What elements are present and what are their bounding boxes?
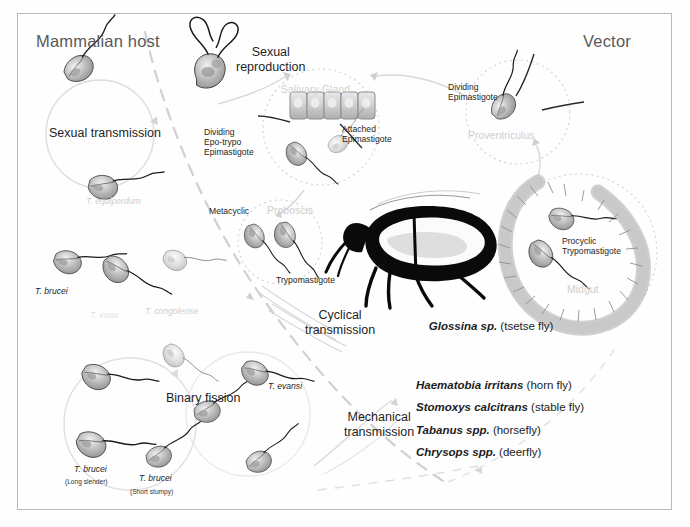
- mechanical-vector-common: (stable fly): [528, 401, 584, 413]
- label-t-brucei-short-stumpy-sub: (Short stumpy): [130, 488, 173, 496]
- mechanical-vector-species: Chrysops spp.: [416, 446, 496, 458]
- salivary-gland-epithelium: [290, 92, 375, 119]
- label-midgut: Midgut: [567, 283, 599, 295]
- label-t-brucei-long-slender-sub: (Long slender): [65, 478, 108, 486]
- mechanical-vector-common: (deerfly): [496, 446, 541, 458]
- list-item: Haematobia irritans (horn fly): [416, 374, 584, 396]
- label-trypomastigote: Trypomastigote: [276, 275, 335, 285]
- label-proboscis: Proboscis: [267, 204, 313, 216]
- trypanosome-binary-fission-top: [78, 344, 159, 416]
- label-dividing-epo-trypo-epimastigote: Dividing Epo-trypo Epimastigote: [204, 127, 254, 157]
- label-sexual-transmission: Sexual transmission: [49, 126, 161, 141]
- label-t-congolense: T. congolense: [145, 306, 198, 316]
- caption-glossina-species: Glossina sp.: [429, 320, 497, 332]
- mechanical-vector-species: Haematobia irritans: [416, 379, 523, 391]
- page-title-mammalian-host: Mammalian host: [36, 32, 160, 51]
- label-procyclic-trypomastigote: Procyclic Trypomastigote: [562, 236, 621, 256]
- label-t-brucei: T. brucei: [35, 286, 68, 296]
- mechanical-vector-species: Stomoxys calcitrans: [416, 401, 528, 413]
- list-item: Stomoxys calcitrans (stable fly): [416, 396, 584, 418]
- figure-canvas: Mammalian host Vector Sexual transmissio…: [0, 0, 690, 527]
- mechanical-vector-species: Tabanus spp.: [416, 424, 490, 436]
- label-t-equiperdum: T. equiperdum: [86, 196, 141, 206]
- trypanosome-short-stumpy: [141, 421, 208, 469]
- tsetse-fly-illustration: [326, 191, 497, 308]
- label-dividing-epimastigote: Dividing Epimastigote: [448, 82, 498, 102]
- proventriculus-extra-flagellum: [516, 54, 584, 110]
- trypanosome-sexual-reproduction: [190, 17, 238, 88]
- label-sexual-reproduction: Sexual reproduction: [236, 45, 306, 75]
- label-cyclical-transmission: Cyclical transmission: [305, 308, 375, 338]
- label-t-brucei-short-stumpy: T. brucei: [139, 473, 172, 483]
- page-title-vector: Vector: [583, 32, 631, 51]
- caption-glossina: Glossina sp. (tsetse fly): [416, 306, 553, 347]
- label-attached-epimastigote: Attached Epimastigote: [342, 124, 392, 144]
- caption-glossina-common: (tsetse fly): [497, 320, 553, 332]
- proventriculus-region: [466, 60, 570, 164]
- midgut-to-proventriculus-arrow: [532, 138, 540, 176]
- list-item: Tabanus spp. (horsefly): [416, 419, 584, 441]
- list-item: Chrysops spp. (deerfly): [416, 441, 584, 463]
- mechanical-vector-common: (horsefly): [490, 424, 541, 436]
- label-t-brucei-long-slender: T. brucei: [74, 464, 107, 474]
- mechanical-vector-common: (horn fly): [523, 379, 572, 391]
- mechanical-vector-list: Haematobia irritans (horn fly) Stomoxys …: [416, 374, 584, 464]
- label-proventriculus: Proventriculus: [468, 129, 535, 141]
- trypanosome-bottom-right-host: [240, 424, 308, 476]
- trypanosome-evansi: [237, 342, 314, 413]
- label-t-vivax: T. vivax: [90, 310, 119, 320]
- figure-frame: Mammalian host Vector Sexual transmissio…: [17, 13, 672, 510]
- trypanosome-congolense: [160, 233, 226, 290]
- bottom-transition-dashes: [318, 466, 482, 490]
- label-binary-fission: Binary fission: [166, 391, 240, 406]
- label-metacyclic: Metacyclic: [209, 206, 249, 216]
- label-mechanical-transmission: Mechanical transmission: [344, 410, 414, 440]
- label-t-evansi: T. evansi: [268, 381, 302, 391]
- label-salivary-gland: Salivary Gland: [281, 84, 350, 96]
